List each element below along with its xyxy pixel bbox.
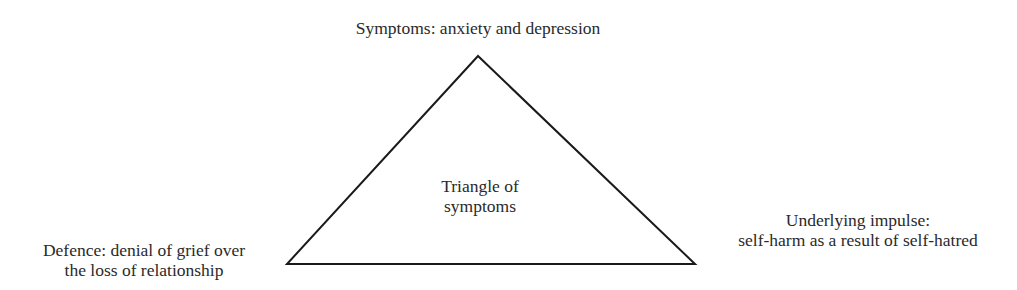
triangle-shape <box>287 56 695 264</box>
center-label-line2: symptoms <box>420 196 540 216</box>
left-vertex-label: Defence: denial of grief over the loss o… <box>4 240 284 280</box>
left-label-line2: the loss of relationship <box>4 260 284 280</box>
left-label-line1: Defence: denial of grief over <box>4 240 284 260</box>
top-vertex-label: Symptoms: anxiety and depression <box>338 18 618 38</box>
right-label-line2: self-harm as a result of self-hatred <box>700 230 1016 250</box>
center-label-line1: Triangle of <box>420 176 540 196</box>
right-label-line1: Underlying impulse: <box>700 210 1016 230</box>
right-vertex-label: Underlying impulse: self-harm as a resul… <box>700 210 1016 250</box>
center-label: Triangle of symptoms <box>420 176 540 216</box>
